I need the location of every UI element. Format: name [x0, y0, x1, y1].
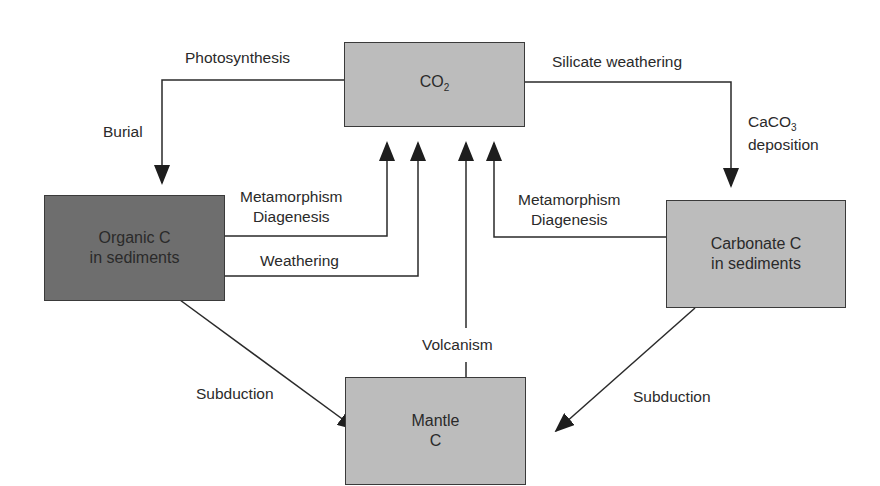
carbonate-metamorphism-label: Metamorphism Diagenesis [518, 190, 621, 230]
burial-label: Burial [103, 122, 143, 142]
mantle-line1: Mantle [411, 411, 459, 431]
organic-carbon-node: Organic C in sediments [44, 195, 225, 301]
subduction-right-arrow [556, 308, 695, 431]
organic-line2: in sediments [90, 248, 180, 268]
carbonate-line1: Carbonate C [711, 234, 802, 254]
photosynthesis-label: Photosynthesis [185, 48, 290, 68]
silicate-weathering-label: Silicate weathering [552, 52, 682, 72]
co2-label: CO2 [420, 72, 450, 98]
carbonate-line2: in sediments [711, 254, 801, 274]
mantle-carbon-node: Mantle C [345, 377, 526, 485]
subduction-left-label: Subduction [196, 384, 274, 404]
organic-metamorphism-label: Metamorphism Diagenesis [240, 187, 343, 227]
organic-line1: Organic C [98, 228, 170, 248]
subduction-left-arrow [180, 300, 356, 429]
co2-node: CO2 [344, 42, 525, 127]
volcanism-label: Volcanism [422, 335, 493, 355]
deposition-label: deposition [748, 135, 819, 155]
mantle-line2: C [430, 431, 442, 451]
burial-arrow [162, 80, 344, 183]
carbonate-carbon-node: Carbonate C in sediments [666, 200, 846, 308]
deposition-arrow [524, 82, 731, 186]
carbon-cycle-diagram: CO2 Organic C in sediments Carbonate C i… [0, 0, 880, 486]
weathering-label: Weathering [260, 251, 339, 271]
subduction-right-label: Subduction [633, 387, 711, 407]
